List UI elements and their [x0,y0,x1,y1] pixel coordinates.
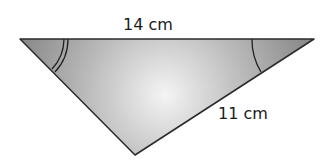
side-label-top: 14 cm [123,15,173,34]
side-label-right: 11 cm [218,104,268,123]
triangle-shape [20,39,314,155]
